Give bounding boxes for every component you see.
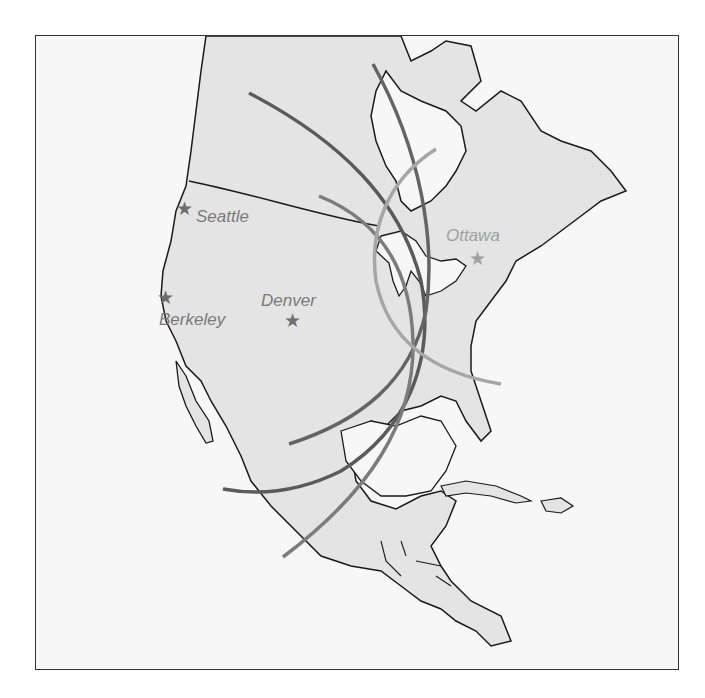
city-label-ottawa: Ottawa bbox=[446, 226, 500, 246]
city-label-denver: Denver bbox=[261, 291, 316, 311]
star-icon: ★ bbox=[284, 311, 301, 330]
hispaniola bbox=[541, 498, 573, 513]
star-icon: ★ bbox=[157, 288, 174, 307]
city-label-seattle: Seattle bbox=[196, 207, 249, 227]
star-icon: ★ bbox=[469, 249, 486, 268]
star-icon: ★ bbox=[176, 199, 193, 218]
north-america-map bbox=[36, 36, 679, 670]
map-frame: ★ Seattle ★ Berkeley ★ Denver ★ Ottawa bbox=[35, 35, 679, 670]
city-label-berkeley: Berkeley bbox=[159, 310, 225, 330]
